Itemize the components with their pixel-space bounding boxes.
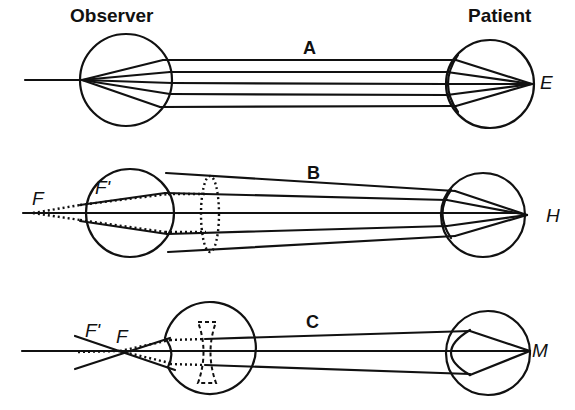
panel-a — [25, 34, 534, 128]
retina-label-m: M — [532, 340, 548, 362]
concave-lens — [198, 322, 216, 383]
observer-header: Observer — [70, 5, 153, 27]
panel-a-label: A — [303, 38, 316, 59]
retina-label-h: H — [546, 205, 560, 227]
patient-eye-b — [441, 173, 525, 257]
focal-label-f-c: F — [116, 326, 128, 348]
focal-label-f-prime-c: F' — [85, 320, 100, 342]
patient-eye-c — [446, 311, 530, 395]
focal-label-f: F — [32, 188, 44, 210]
retina-label-e: E — [540, 72, 553, 94]
panel-b-label: B — [307, 163, 320, 184]
focal-label-f-prime: F' — [95, 177, 110, 199]
patient-header: Patient — [468, 5, 531, 27]
ophthalmoscopy-ray-diagram: Observer Patient A E B F F' H C F' F M — [0, 0, 575, 410]
panel-c-label: C — [306, 312, 319, 333]
panel-c — [22, 302, 530, 395]
